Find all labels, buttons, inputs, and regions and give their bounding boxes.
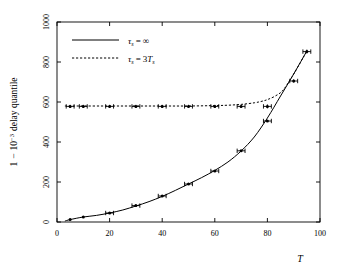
data-point-marker: [213, 105, 216, 108]
data-point-marker: [161, 195, 164, 198]
legend-value-T-subscript: s: [152, 58, 155, 65]
y-axis-title-minus: −: [9, 153, 19, 158]
legend-tau-subscript-1: s: [131, 58, 134, 65]
y-tick-label: 400: [42, 136, 51, 148]
data-point-marker: [82, 216, 85, 219]
y-axis-title-base: 10: [9, 141, 19, 151]
y-tick-label: 200: [42, 176, 51, 188]
data-point-marker: [266, 120, 269, 123]
legend-label-tau-infinity: τs=∞: [128, 36, 149, 47]
data-point-marker: [187, 183, 190, 186]
data-point-marker: [305, 50, 308, 53]
series-line-tau-3ts: [65, 51, 307, 106]
y-axis-ticks: 02004006008001000: [42, 14, 320, 224]
data-markers-tau-infinity: [69, 49, 311, 221]
plot-frame: [57, 22, 320, 222]
data-point-marker: [108, 212, 111, 215]
y-axis-title-rest: delay quantile: [9, 78, 19, 132]
y-tick-label: 800: [42, 56, 51, 68]
series-line-tau-infinity: [65, 51, 307, 221]
x-tick-label: 60: [211, 229, 219, 238]
data-point-marker: [240, 149, 243, 152]
data-point-marker: [69, 218, 72, 221]
legend-equals-0: =: [136, 36, 141, 46]
y-tick-label: 1000: [42, 14, 51, 30]
y-tick-label: 0: [42, 220, 51, 224]
data-point-marker: [292, 80, 295, 83]
chart-plot: 020406080100 02004006008001000 τs=∞ τs=3…: [0, 0, 351, 275]
data-point-marker: [69, 105, 72, 108]
legend-tau-subscript-0: s: [131, 40, 134, 47]
y-tick-label: 600: [42, 96, 51, 108]
y-axis-title: 1−10−3delay quantile: [8, 78, 19, 167]
data-point-marker: [187, 105, 190, 108]
x-tick-label: 80: [263, 229, 271, 238]
legend-value-infinity: ∞: [143, 36, 149, 46]
data-point-marker: [240, 105, 243, 108]
data-point-marker: [108, 105, 111, 108]
data-point-marker: [161, 105, 164, 108]
y-axis-title-exponent: −3: [8, 134, 15, 141]
x-tick-label: 20: [106, 229, 114, 238]
chart-legend: τs=∞ τs=3Ts: [72, 36, 155, 65]
y-axis-title-one: 1: [9, 161, 19, 166]
data-point-marker: [266, 105, 269, 108]
figure-container: 020406080100 02004006008001000 τs=∞ τs=3…: [0, 0, 351, 275]
x-axis-ticks: 020406080100: [55, 22, 326, 238]
x-tick-label: 0: [55, 229, 59, 238]
data-point-marker: [134, 204, 137, 207]
x-tick-label: 100: [314, 229, 326, 238]
data-point-marker: [82, 105, 85, 108]
legend-label-tau-3ts: τs=3Ts: [128, 54, 155, 65]
data-point-marker: [213, 170, 216, 173]
data-point-marker: [134, 105, 137, 108]
x-tick-label: 40: [158, 229, 166, 238]
legend-equals-1: =: [136, 54, 141, 64]
x-axis-title: T: [297, 253, 304, 264]
